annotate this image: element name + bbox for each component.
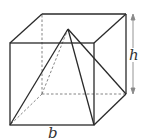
base-label: b xyxy=(48,124,58,140)
height-label: h xyxy=(129,46,139,64)
hidden-edges xyxy=(10,15,126,125)
pyramid-in-cube-diagram: h b xyxy=(0,0,142,140)
